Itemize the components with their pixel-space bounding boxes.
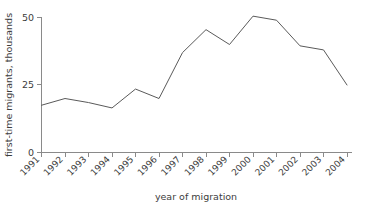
x-tick-label-1992: 1992 [42, 154, 65, 177]
x-tick-label-1994: 1994 [89, 154, 112, 177]
y-axis-title: first-time migrants, thousands [3, 13, 14, 157]
x-tick-label-1997: 1997 [159, 154, 182, 177]
data-series-line [42, 16, 348, 108]
x-tick-label-2004: 2004 [324, 154, 347, 177]
x-tick-label-1999: 1999 [206, 154, 229, 177]
y-tick-label-25: 25 [22, 79, 34, 90]
x-axis-title: year of migration [155, 191, 237, 202]
x-tick-label-2001: 2001 [253, 154, 276, 177]
x-tick-label-1996: 1996 [136, 154, 159, 177]
x-tick-label-1991: 1991 [18, 154, 41, 177]
x-tick-label-1998: 1998 [183, 154, 206, 177]
line-chart-figure: 50 25 0 first-time migrants, thousands 1… [0, 0, 368, 206]
x-tick-label-1995: 1995 [112, 154, 135, 177]
chart-plot-area: 50 25 0 first-time migrants, thousands 1… [0, 0, 368, 206]
chart-screenshot: 50 25 0 first-time migrants, thousands 1… [0, 0, 368, 206]
x-tick-label-2000: 2000 [230, 154, 253, 177]
y-tick-label-50: 50 [22, 12, 34, 23]
x-tick-label-2003: 2003 [300, 154, 323, 177]
x-tick-label-1993: 1993 [65, 154, 88, 177]
x-tick-label-2002: 2002 [277, 154, 300, 177]
